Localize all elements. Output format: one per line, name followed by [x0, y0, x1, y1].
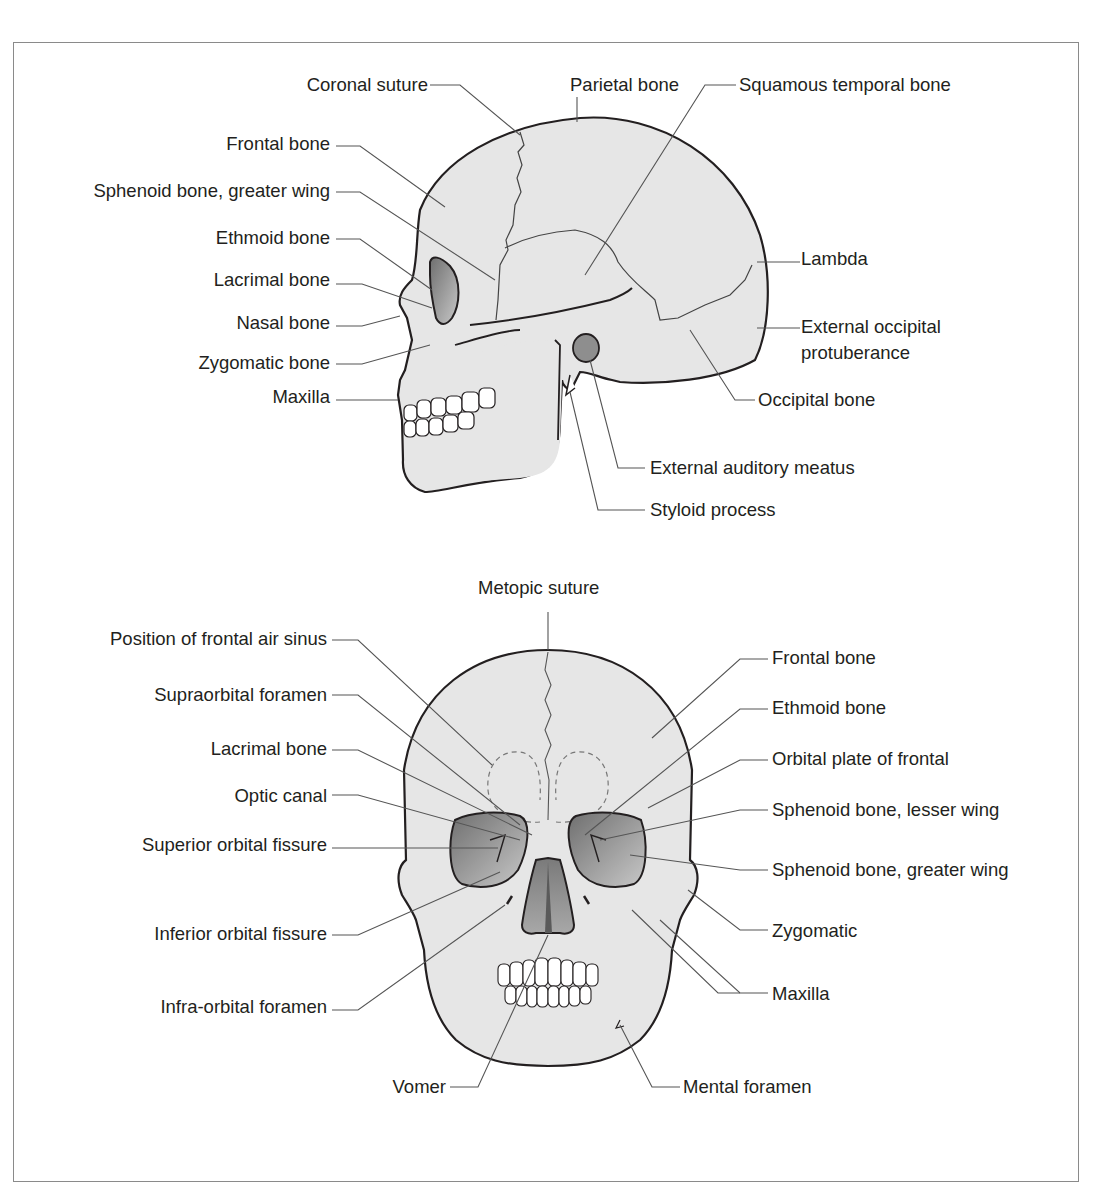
label-inferior-orbital-fissure: Inferior orbital fissure — [154, 923, 327, 945]
label-squamous-temporal-bone: Squamous temporal bone — [739, 74, 951, 96]
label-ethmoid-bone: Ethmoid bone — [216, 227, 330, 249]
label-zygomatic: Zygomatic — [772, 920, 857, 942]
label-external-auditory-meatus: External auditory meatus — [650, 457, 855, 479]
label-frontal-air-sinus: Position of frontal air sinus — [110, 628, 327, 650]
label-superior-orbital-fissure: Superior orbital fissure — [142, 834, 327, 856]
label-ethmoid-bone-front: Ethmoid bone — [772, 697, 886, 719]
label-coronal-suture: Coronal suture — [307, 74, 428, 96]
label-frontal-bone: Frontal bone — [226, 133, 330, 155]
label-frontal-bone-front: Frontal bone — [772, 647, 876, 669]
label-mental-foramen: Mental foramen — [683, 1076, 812, 1098]
label-maxilla-front: Maxilla — [772, 983, 830, 1005]
label-lacrimal-bone: Lacrimal bone — [214, 269, 330, 291]
label-styloid-process: Styloid process — [650, 499, 775, 521]
label-optic-canal: Optic canal — [234, 785, 327, 807]
label-infra-orbital-foramen: Infra-orbital foramen — [160, 996, 327, 1018]
label-zygomatic-bone: Zygomatic bone — [198, 352, 330, 374]
label-protuberance: protuberance — [801, 342, 910, 364]
label-lambda: Lambda — [801, 248, 868, 270]
label-sphenoid-greater-wing-front: Sphenoid bone, greater wing — [772, 859, 1009, 881]
label-supraorbital-foramen: Supraorbital foramen — [154, 684, 327, 706]
label-external-occipital: External occipital — [801, 316, 941, 338]
label-maxilla: Maxilla — [272, 386, 330, 408]
label-metopic-suture: Metopic suture — [478, 577, 599, 599]
label-sphenoid-greater-wing: Sphenoid bone, greater wing — [93, 180, 330, 202]
frontal-teeth — [498, 958, 598, 1007]
label-vomer: Vomer — [393, 1076, 446, 1098]
label-orbital-plate-of-frontal: Orbital plate of frontal — [772, 748, 949, 770]
lateral-skull — [398, 117, 768, 492]
label-nasal-bone: Nasal bone — [236, 312, 330, 334]
label-sphenoid-lesser-wing: Sphenoid bone, lesser wing — [772, 799, 999, 821]
external-auditory-meatus-shape — [573, 334, 599, 362]
label-lacrimal-bone-front: Lacrimal bone — [211, 738, 327, 760]
label-parietal-bone: Parietal bone — [570, 74, 679, 96]
label-occipital-bone: Occipital bone — [758, 389, 875, 411]
